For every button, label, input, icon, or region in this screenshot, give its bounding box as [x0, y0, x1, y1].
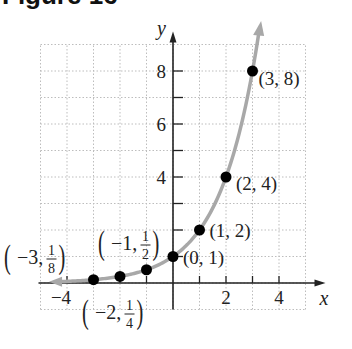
- point-label: (0, 1): [183, 247, 224, 269]
- fraction-numerator: 1: [126, 298, 133, 313]
- paren-open: (: [82, 293, 89, 331]
- y-axis-arrow-icon: [170, 32, 177, 43]
- paren-close: ): [137, 293, 144, 331]
- x-tick-label: −4: [51, 287, 72, 308]
- paren-close: ): [59, 238, 66, 276]
- point-label-coords: −2,: [95, 301, 121, 323]
- y-tick-label: 8: [157, 61, 167, 82]
- point-label-coords: −1,: [111, 232, 137, 254]
- fraction-numerator: 1: [48, 243, 55, 258]
- curve-arrow-up-icon: [253, 21, 264, 36]
- fraction-denominator: 8: [48, 261, 55, 276]
- data-point: [247, 66, 258, 77]
- curve-arrow-left-icon: [49, 277, 62, 287]
- fraction-numerator: 1: [142, 229, 149, 244]
- y-axis-label: y: [155, 17, 166, 40]
- point-label: (1, 2): [210, 220, 251, 242]
- labels-layer: (−3,18)(−2,14)(−1,12)(0, 1)(1, 2)(2, 4)(…: [4, 68, 300, 331]
- point-label-coords: −3,: [17, 246, 43, 268]
- paren-open: (: [4, 238, 11, 276]
- point-label: (2, 4): [236, 173, 277, 195]
- data-point: [194, 225, 205, 236]
- x-axis-label: x: [319, 287, 329, 309]
- point-label: (3, 8): [259, 68, 300, 90]
- y-tick-label: 4: [157, 167, 167, 188]
- y-tick-label: 6: [157, 114, 167, 135]
- paren-close: ): [153, 224, 160, 262]
- x-tick-label: 2: [221, 287, 231, 308]
- data-point: [221, 172, 232, 183]
- fraction-denominator: 4: [126, 316, 133, 331]
- x-axis-arrow-icon: [315, 280, 326, 287]
- fraction-denominator: 2: [142, 247, 149, 262]
- data-point: [168, 251, 179, 262]
- data-point: [141, 264, 152, 275]
- exponential-graph: −424468xy (−3,18)(−2,14)(−1,12)(0, 1)(1,…: [0, 0, 352, 349]
- data-point: [115, 271, 126, 282]
- x-tick-label: 4: [274, 287, 284, 308]
- point-label: (−3,18): [4, 238, 65, 276]
- point-label: (−2,14): [82, 293, 143, 331]
- paren-open: (: [98, 224, 105, 262]
- data-point: [88, 274, 99, 285]
